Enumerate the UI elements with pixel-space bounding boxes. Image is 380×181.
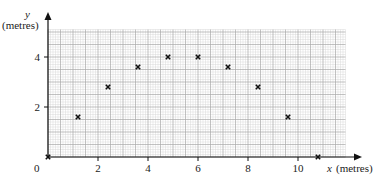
y-axis-arrow-icon — [45, 12, 52, 20]
x-tick-label: 2 — [95, 162, 101, 174]
x-axis-unit: (metres) — [336, 162, 373, 175]
y-axis-unit: (metres) — [2, 19, 39, 32]
graph-paper-grid — [48, 30, 346, 158]
x-axis-variable: x — [326, 162, 332, 174]
origin-label: 0 — [34, 162, 40, 174]
y-tick-label: 4 — [35, 51, 41, 63]
x-tick-label: 4 — [145, 162, 151, 174]
x-tick-label: 10 — [293, 162, 305, 174]
x-axis-arrow-icon — [354, 154, 362, 161]
x-tick-label: 6 — [195, 162, 201, 174]
y-tick-label: 2 — [35, 101, 41, 113]
x-tick-label: 8 — [245, 162, 251, 174]
scatter-chart: 24681024 0 y (metres) x (metres) — [0, 0, 380, 181]
